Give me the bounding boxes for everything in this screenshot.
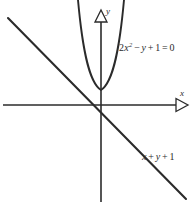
parabola-equals-operator: = xyxy=(161,42,170,53)
parabola-equation-label: 2x2−y+1=0 xyxy=(119,42,175,53)
line-constant: 1 xyxy=(169,151,174,162)
graph-figure: y x 2x2−y+1=0 x+y+1 xyxy=(0,0,196,207)
line-first-plus-operator: + xyxy=(147,151,156,162)
graph-canvas xyxy=(0,0,196,207)
parabola-right-hand-side: 0 xyxy=(170,42,175,53)
parabola-plus-operator: + xyxy=(146,42,155,53)
y-axis-label: y xyxy=(106,6,110,16)
x-axis-arrowhead-icon xyxy=(176,99,188,112)
parabola-constant: 1 xyxy=(155,42,160,53)
x-axis-label: x xyxy=(180,88,184,98)
line-equation-label: x+y+1 xyxy=(142,151,175,162)
parabola-minus-operator: − xyxy=(133,42,142,53)
